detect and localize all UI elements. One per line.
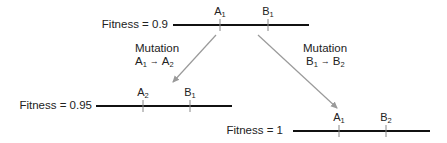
mutation-change-right: B1→B2: [303, 55, 347, 68]
mutation-title-left: Mutation: [135, 42, 179, 55]
gene-label-a2-left: A2: [137, 86, 149, 99]
mutation-annotation-right: Mutation B1→B2: [303, 42, 347, 68]
chromosome-left: [96, 100, 232, 112]
gene-label-b1-top: B1: [262, 5, 274, 18]
gene-label-b1-left: B1: [184, 86, 196, 99]
gene-label-a1-right: A1: [333, 111, 345, 124]
chromosome-right: [293, 125, 430, 137]
gene-label-a1-top: A1: [214, 5, 226, 18]
mutation-arrow-left: [173, 35, 216, 82]
right-arrow-icon: →: [321, 56, 330, 66]
mutation-change-left: A1→A2: [135, 55, 179, 68]
fitness-label-right: Fitness = 1: [226, 124, 283, 137]
mutation-title-right: Mutation: [303, 42, 347, 55]
fitness-label-top: Fitness = 0.9: [102, 18, 168, 31]
gene-label-b2-right: B2: [380, 111, 392, 124]
mutation-annotation-left: Mutation A1→A2: [135, 42, 179, 68]
right-arrow-icon: →: [150, 56, 159, 66]
chromosome-top: [173, 19, 309, 31]
fitness-label-left: Fitness = 0.95: [19, 99, 92, 112]
